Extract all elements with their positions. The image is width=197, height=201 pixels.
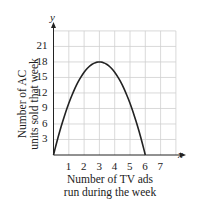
x-axis-letter: x (178, 148, 183, 160)
y-tick-label: 3 (42, 133, 48, 144)
y-tick-label: 9 (42, 102, 48, 113)
y-axis-label-line-2: units sold that week (28, 49, 40, 159)
x-tick-label: 4 (112, 161, 118, 172)
y-axis-label: Number of AC units sold that week (16, 49, 40, 159)
grid-lines (54, 31, 176, 155)
y-axis-label-line-1: Number of AC (16, 49, 28, 159)
x-axis-label-line-2: run during the week (55, 186, 165, 199)
x-tick-label: 3 (96, 161, 102, 172)
y-tick-label: 6 (42, 118, 48, 129)
x-tick-label: 6 (142, 161, 148, 172)
x-axis-label-line-1: Number of TV ads (55, 173, 165, 186)
x-tick-label: 5 (127, 161, 133, 172)
y-axis-letter: y (50, 11, 55, 23)
x-tick-label: 7 (158, 161, 164, 172)
axes (51, 22, 186, 158)
x-tick-label: 1 (66, 161, 72, 172)
x-axis-label: Number of TV ads run during the week (55, 173, 165, 198)
x-tick-label: 2 (81, 161, 87, 172)
